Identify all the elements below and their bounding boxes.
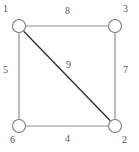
edge-label-bottom: 4 [65,134,70,144]
edge-label-diagonal: 9 [66,60,71,70]
node-label-1: 1 [3,4,8,14]
graph-diagram: 1 3 6 2 8 5 7 4 9 [0,0,139,152]
edge-label-right: 7 [123,65,128,75]
node-6 [13,120,26,133]
node-label-3: 3 [123,4,128,14]
node-label-2: 2 [122,135,127,145]
node-label-6: 6 [10,135,15,145]
edge-label-top: 8 [65,6,70,16]
edge-label-left: 5 [3,65,8,75]
node-1 [13,20,26,33]
node-3 [109,20,122,33]
node-2 [109,120,122,133]
edge-1-2-diagonal [24,31,111,120]
graph-canvas [0,0,139,152]
